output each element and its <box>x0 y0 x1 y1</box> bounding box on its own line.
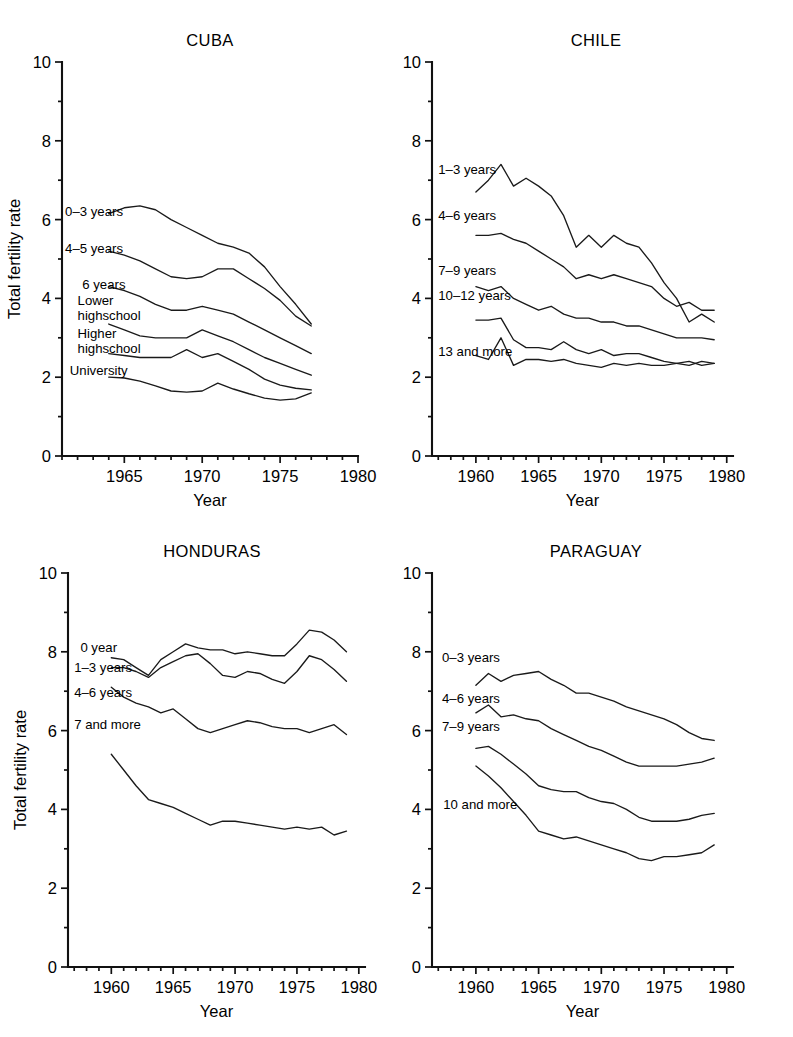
series-label: 4–6 years <box>438 208 496 223</box>
x-axis-ticks: 19601965197019751980 <box>438 967 745 996</box>
series-label-text: 13 and more <box>438 344 512 359</box>
series-label-text: 4–6 years <box>438 208 496 223</box>
x-tick-label: 1975 <box>279 978 316 996</box>
x-tick-label: 1960 <box>93 978 130 996</box>
y-tick-label: 8 <box>412 643 421 661</box>
series-line <box>476 233 714 310</box>
series-label: 0–3 years <box>442 650 500 665</box>
axes <box>432 573 733 967</box>
y-tick-label: 4 <box>412 289 421 307</box>
series-label-text: 7 and more <box>74 717 141 732</box>
series-line <box>109 206 312 324</box>
series-label-text: Lower <box>78 293 115 308</box>
series-label-text: University <box>70 363 128 378</box>
y-tick-label: 10 <box>403 564 421 582</box>
series-line <box>476 766 714 861</box>
y-tick-label: 6 <box>48 722 57 740</box>
series-label-text: 1–3 years <box>438 162 496 177</box>
y-axis-ticks: 0246810 <box>39 564 68 976</box>
y-tick-label: 4 <box>48 800 57 818</box>
y-axis-ticks: 0246810 <box>403 564 432 976</box>
x-axis-title: Year <box>566 1002 600 1020</box>
x-axis-title: Year <box>193 491 227 509</box>
x-tick-label: 1970 <box>583 978 620 996</box>
y-tick-label: 8 <box>48 643 57 661</box>
y-tick-label: 2 <box>48 879 57 897</box>
series-label: 1–3 years <box>74 660 132 675</box>
x-tick-label: 1970 <box>217 978 254 996</box>
x-axis-ticks: 1965197019751980 <box>62 456 376 485</box>
series-label-text: 10 and more <box>443 797 517 812</box>
series-label-text: 4–6 years <box>442 691 500 706</box>
chart-panel-paraguay: 024681019601965197019751980YearTotal fer… <box>396 518 793 1037</box>
series-label: 10 and more <box>443 797 517 812</box>
axes <box>62 62 358 456</box>
series-label: University <box>70 363 128 378</box>
chart-panel-honduras: 024681019601965197019751980YearTotal fer… <box>0 518 396 1037</box>
series-line <box>476 287 714 340</box>
y-tick-label: 0 <box>48 958 57 976</box>
series-label-text: 4–6 years <box>74 685 132 700</box>
x-tick-label: 1970 <box>184 467 221 485</box>
y-tick-label: 6 <box>42 211 51 229</box>
series-label-text: 7–9 years <box>438 263 496 278</box>
panel-title: HONDURAS <box>163 542 261 560</box>
series-label: 4–5 years <box>65 241 123 256</box>
x-tick-label: 1975 <box>262 467 299 485</box>
series-label-text: 0–3 years <box>65 204 123 219</box>
y-tick-label: 4 <box>412 800 421 818</box>
y-tick-label: 6 <box>412 211 421 229</box>
series-label-text: Higher <box>78 326 117 341</box>
series-label: 10–12 years <box>438 288 511 303</box>
x-tick-label: 1980 <box>708 978 745 996</box>
chart-panel-chile: 024681019601965197019751980YearTotal fer… <box>396 0 793 518</box>
y-tick-label: 10 <box>403 53 421 71</box>
axes <box>432 62 733 456</box>
x-tick-label: 1980 <box>340 467 377 485</box>
series-line <box>109 377 312 400</box>
series-label-text: 0–3 years <box>442 650 500 665</box>
series-label: 7–9 years <box>438 263 496 278</box>
x-tick-label: 1965 <box>520 467 557 485</box>
series-label-text: 6 years <box>82 277 126 292</box>
y-tick-label: 8 <box>412 132 421 150</box>
series-label-text: 10–12 years <box>438 288 511 303</box>
x-axis-ticks: 19601965197019751980 <box>74 967 377 996</box>
series-label: 7–9 years <box>442 719 500 734</box>
series-line <box>476 672 714 741</box>
series-label-text: 4–5 years <box>65 241 123 256</box>
y-tick-label: 0 <box>412 958 421 976</box>
chart-panel-cuba: 02468101965197019751980YearTotal fertili… <box>0 0 396 518</box>
x-tick-label: 1980 <box>708 467 745 485</box>
series-label-text: highschool <box>78 341 141 356</box>
series-label: 4–6 years <box>442 691 500 706</box>
series-line <box>111 630 346 675</box>
series-line <box>476 164 714 322</box>
panel-title: PARAGUAY <box>550 542 642 560</box>
x-axis-ticks: 19601965197019751980 <box>438 456 745 485</box>
x-axis-title: Year <box>566 491 600 509</box>
x-axis-title: Year <box>200 1002 234 1020</box>
series-line <box>111 654 346 684</box>
series-label-text: 1–3 years <box>74 660 132 675</box>
panel-title: CHILE <box>571 31 622 49</box>
x-tick-label: 1960 <box>458 978 495 996</box>
series-label: 0 year <box>80 640 117 655</box>
series-line <box>476 705 714 766</box>
series-label: 13 and more <box>438 344 512 359</box>
x-tick-label: 1965 <box>106 467 143 485</box>
y-axis-ticks: 0246810 <box>403 53 432 465</box>
series-line <box>111 687 346 734</box>
series-label: 4–6 years <box>74 685 132 700</box>
y-tick-label: 10 <box>39 564 57 582</box>
y-tick-label: 10 <box>33 53 51 71</box>
y-tick-label: 2 <box>412 368 421 386</box>
y-tick-label: 8 <box>42 132 51 150</box>
x-tick-label: 1965 <box>520 978 557 996</box>
series-label: 1–3 years <box>438 162 496 177</box>
series-label: Higherhighschool <box>78 326 141 356</box>
series-label: 6 years <box>82 277 126 292</box>
x-tick-label: 1975 <box>646 467 683 485</box>
series-label-text: 0 year <box>80 640 117 655</box>
y-axis-title: Total fertility rate <box>5 199 23 319</box>
